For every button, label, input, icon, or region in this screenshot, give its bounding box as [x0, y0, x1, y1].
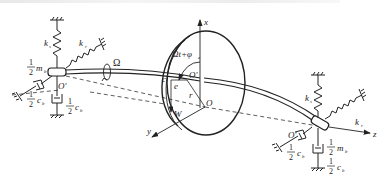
right-vertical-damper [311, 128, 325, 171]
left-vertical-spring [50, 17, 64, 68]
svg-text:2: 2 [29, 100, 33, 109]
c-label: c [162, 74, 166, 84]
omega-label: Ω [113, 57, 120, 68]
kr-right-label: k [355, 117, 360, 127]
svg-text:c: c [75, 102, 79, 112]
svg-text:b: b [302, 154, 305, 159]
o-prime-disk-label: O' [189, 70, 198, 80]
svg-text:1: 1 [68, 97, 72, 106]
svg-text:b: b [342, 168, 345, 173]
svg-text:2: 2 [329, 148, 333, 157]
left-radial-spring [66, 38, 106, 68]
svg-text:m: m [36, 63, 43, 73]
svg-text:c: c [337, 162, 341, 172]
svg-text:b: b [80, 108, 83, 113]
kr-left-label: k [79, 38, 84, 48]
rotor-diagram: Ω k s k r 1 2 m b [0, 0, 382, 194]
svg-text:c: c [297, 148, 301, 158]
mb-right-label: 1 2 m b [327, 138, 348, 157]
svg-text:c: c [37, 95, 41, 105]
svg-text:b: b [345, 149, 348, 154]
svg-text:2: 2 [29, 68, 33, 77]
diagram-svg: Ω k s k r 1 2 m b [0, 0, 382, 194]
svg-text:Ωt+φ: Ωt+φ [172, 49, 192, 59]
svg-text:2: 2 [68, 107, 72, 116]
kr-left-sub: r [85, 44, 87, 49]
cb-right-vertical-label: 1 2 c b [327, 157, 345, 176]
svg-text:1: 1 [329, 157, 333, 166]
svg-text:e: e [198, 55, 201, 60]
ks-left-sub: s [49, 44, 51, 49]
mb-left-label: 1 2 m b [27, 58, 47, 77]
svg-text:b: b [42, 101, 45, 106]
cb-right-diagonal-label: 1 2 c b [287, 143, 305, 162]
o-label: O [206, 98, 213, 108]
kr-right-sub: r [361, 123, 363, 128]
w-label: W [174, 109, 183, 119]
o-prime-left-label: O' [58, 81, 67, 91]
z-axis [329, 127, 370, 133]
r-label: r [189, 90, 193, 100]
svg-text:2: 2 [329, 167, 333, 176]
right-vertical-spring [311, 72, 325, 118]
svg-text:1: 1 [29, 58, 33, 67]
e-label: e [174, 81, 178, 91]
z-axis-label: z [372, 129, 377, 139]
svg-text:1: 1 [29, 90, 33, 99]
right-radial-spring [325, 89, 366, 119]
cb-left-vertical-label: 1 2 c b [66, 97, 83, 116]
phase-angle-label: Ωt+φ e [172, 49, 201, 60]
svg-text:1: 1 [329, 138, 333, 147]
left-bearing [48, 68, 66, 76]
ks-right-sub: s [310, 99, 312, 104]
svg-text:b: b [44, 69, 47, 74]
svg-text:m: m [337, 143, 344, 153]
svg-text:2: 2 [289, 153, 293, 162]
y-axis-label: y [146, 126, 151, 136]
x-axis-label: x [203, 17, 208, 27]
svg-text:1: 1 [289, 143, 293, 152]
